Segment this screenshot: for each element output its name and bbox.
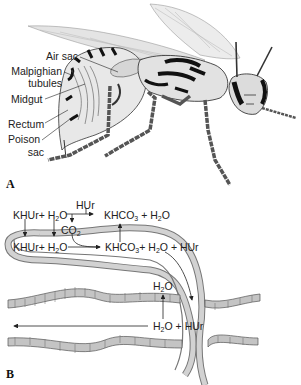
- panel-letter-b: B: [6, 367, 14, 382]
- wasp-illustration: [0, 0, 301, 200]
- label-tubules: tubules: [7, 78, 62, 89]
- label-h2o-reabsorbed: H2O: [153, 280, 173, 292]
- panel-a-wasp-anatomy: Air sac Malpighian tubules Midgut Rectum…: [0, 0, 301, 200]
- label-khur-h2o-tubule: KHUr+ H2O: [13, 241, 67, 253]
- panel-b-excretion-diagram: KHUr+ H2O HUr CO2 KHCO3 + H2O KHUr+ H2O …: [0, 200, 301, 385]
- label-malpighian: Malpighian: [7, 66, 62, 77]
- label-khco3-h2o-top: KHCO3 + H2O: [104, 209, 170, 221]
- label-poison: Poison: [8, 134, 40, 145]
- label-rectum: Rectum: [8, 119, 44, 130]
- label-co2: CO2: [61, 224, 81, 236]
- abdomen-icon: [59, 47, 148, 158]
- label-h2o-hur-gut: H2O + HUr: [153, 320, 203, 332]
- panel-letter-a: A: [6, 177, 15, 192]
- label-khur-h2o-top: KHUr+ H2O: [13, 209, 67, 221]
- hindgut-wall: [8, 287, 260, 353]
- tubule-diagram: [0, 200, 301, 385]
- label-midgut: Midgut: [11, 94, 43, 105]
- head-icon: [229, 42, 296, 118]
- label-khco3-h2o-hur-tubule: KHCO3+ H2O + HUr: [105, 241, 199, 253]
- label-hur-top: HUr: [76, 199, 95, 211]
- label-air-sac: Air sac: [46, 51, 78, 62]
- label-sac: sac: [8, 147, 44, 158]
